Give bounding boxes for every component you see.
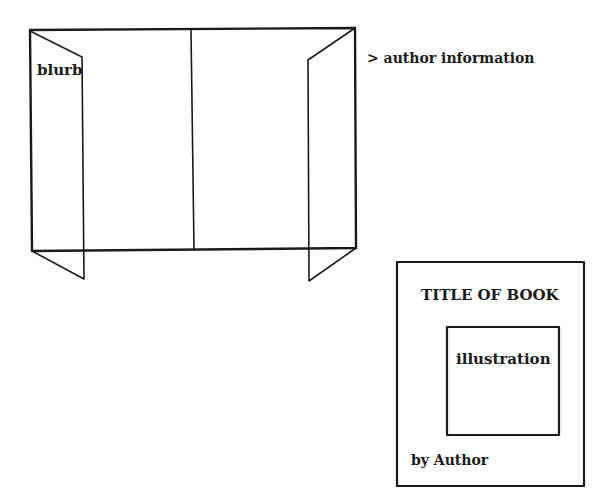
author-information-label: > author information xyxy=(367,50,535,66)
illustration-box xyxy=(447,327,559,435)
author-byline: by Author xyxy=(411,452,488,468)
blurb-label: blurb xyxy=(37,61,82,79)
book-title: TITLE OF BOOK xyxy=(421,286,559,304)
right-flap xyxy=(308,28,356,281)
diagram-canvas xyxy=(0,0,608,501)
illustration-label: illustration xyxy=(456,350,551,368)
spine-line xyxy=(191,30,194,249)
